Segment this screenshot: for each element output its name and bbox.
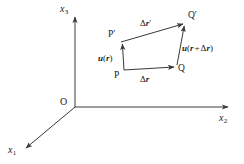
point-label-p: P — [114, 71, 119, 81]
vector-label-u-r: u(r) — [98, 54, 113, 63]
point-label-q: Q — [178, 64, 185, 74]
axis-label-x2: x2 — [219, 113, 227, 125]
axis-label-x1-symbol: x — [8, 144, 12, 155]
axis-label-x1: x1 — [8, 145, 16, 157]
vector-displacement-figure: x3 x2 x1 O P Q P′ Q′ Δr Δr′ u(r) u(r+Δr) — [0, 0, 244, 164]
r-symbol: r — [146, 74, 150, 84]
vector-delta-r-arrow — [124, 67, 174, 70]
axis-label-x2-symbol: x — [219, 112, 223, 123]
close-paren: ) — [210, 43, 213, 53]
close-paren: ) — [110, 53, 113, 63]
vector-u-r-arrow — [122, 44, 124, 70]
origin-label: O — [60, 97, 67, 107]
axis-label-x3: x3 — [60, 4, 68, 16]
axis-x1-line — [26, 107, 75, 148]
vector-label-u-r-plus-delta-r: u(r+Δr) — [182, 44, 213, 53]
vector-delta-r-prime-arrow — [121, 24, 183, 42]
axis-label-x1-subscript: 1 — [13, 149, 17, 157]
point-label-p-prime: P′ — [108, 30, 115, 40]
axis-label-x3-symbol: x — [60, 3, 64, 14]
axis-label-x2-subscript: 2 — [224, 117, 228, 125]
plus-symbol: + — [195, 43, 200, 53]
r-symbol: r — [190, 43, 194, 53]
point-label-q-prime: Q′ — [188, 11, 197, 21]
axis-label-x3-subscript: 3 — [65, 8, 69, 16]
vector-label-delta-r-prime: Δr′ — [140, 19, 151, 28]
vector-label-delta-r: Δr — [140, 75, 149, 84]
prime-symbol: ′ — [149, 18, 151, 28]
figure-canvas — [0, 0, 244, 164]
